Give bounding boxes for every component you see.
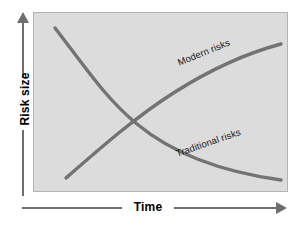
curves-layer — [33, 12, 288, 192]
x-axis-arrow-icon — [276, 202, 287, 214]
y-axis-title: Risk size — [18, 51, 32, 147]
curve-modern-risks — [66, 44, 281, 178]
risk-size-vs-time-chart: Modern risks Traditional risks Risk size… — [0, 0, 301, 225]
x-axis-title: Time — [122, 200, 174, 214]
x-axis-line-left — [22, 207, 122, 209]
y-axis: Risk size — [15, 12, 31, 196]
x-axis-line-right — [174, 207, 277, 209]
x-axis: Time — [22, 200, 288, 218]
